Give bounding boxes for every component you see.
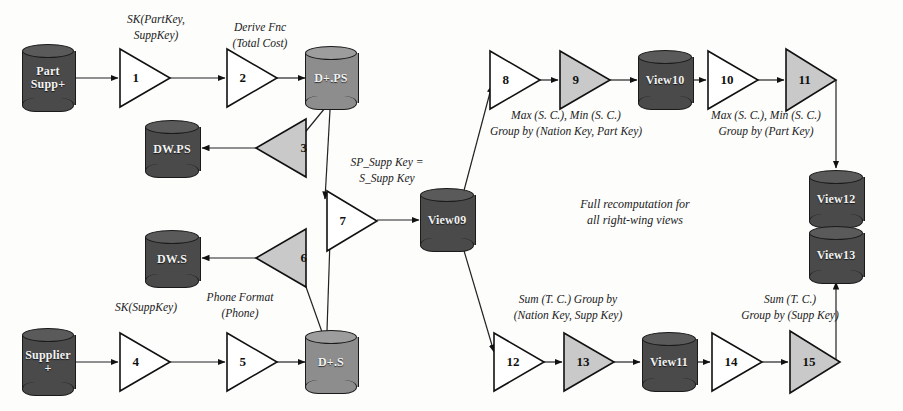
annotation-line2: (Total Cost) bbox=[200, 36, 320, 52]
cylinder-label: D+.S bbox=[305, 330, 357, 394]
annotation-line1: Sum (T. C.) bbox=[700, 292, 880, 308]
cylinder-view10[interactable]: View10 bbox=[638, 50, 692, 110]
cylinder-view12[interactable]: View12 bbox=[809, 170, 863, 228]
operator-8[interactable]: 8 bbox=[489, 50, 541, 110]
operator-3[interactable]: 3 bbox=[255, 118, 307, 178]
operator-6[interactable]: 6 bbox=[255, 228, 307, 288]
cylinder-label: D+.PS bbox=[305, 46, 357, 110]
annotation-sk-partkey: SK(PartKey, SuppKey) bbox=[96, 12, 216, 43]
cylinder-label: DW.S bbox=[145, 230, 199, 288]
annotation-line2: SuppKey) bbox=[96, 28, 216, 44]
cylinder-label: View10 bbox=[638, 50, 692, 110]
annotation-line2: S_Supp Key bbox=[327, 171, 447, 187]
annotation-join-key: SP_Supp Key = S_Supp Key bbox=[327, 155, 447, 186]
annotation-full-recomputation: Full recomputation for all right-wing vi… bbox=[540, 196, 730, 228]
annotation-line2: (Phone) bbox=[180, 306, 300, 322]
cylinder-view09[interactable]: View09 bbox=[420, 188, 474, 252]
operator-4[interactable]: 4 bbox=[119, 332, 171, 392]
annotation-line1: Phone Format bbox=[180, 290, 300, 306]
cylinder-dw-s[interactable]: DW.S bbox=[145, 230, 199, 288]
cylinder-supplier[interactable]: Supplier + bbox=[22, 328, 74, 396]
cylinder-view13[interactable]: View13 bbox=[809, 226, 863, 284]
annotation-phone-format: Phone Format (Phone) bbox=[180, 290, 300, 321]
annotation-line1: SK(PartKey, bbox=[96, 12, 216, 28]
cylinder-label: View12 bbox=[809, 170, 863, 228]
annotation-line1: SP_Supp Key = bbox=[327, 155, 447, 171]
annotation-derive-fnc: Derive Fnc (Total Cost) bbox=[200, 20, 320, 51]
annotation-line1: Max (S. C.), Min (S. C.) bbox=[466, 108, 666, 124]
annotation-line1: Derive Fnc bbox=[200, 20, 320, 36]
cylinder-d-plus-ps[interactable]: D+.PS bbox=[305, 46, 357, 110]
cylinder-label: DW.PS bbox=[145, 120, 199, 178]
diagram-canvas: Part Supp+ Supplier + D+.PS DW.PS D+. bbox=[0, 0, 903, 411]
note-line1: Full recomputation for bbox=[540, 196, 730, 212]
cylinder-label: View11 bbox=[642, 332, 696, 392]
cylinder-label-line2: Supp+ bbox=[31, 78, 66, 91]
annotation-line1: Sum (T. C.) Group by bbox=[478, 292, 658, 308]
cylinder-part-supp[interactable]: Part Supp+ bbox=[22, 44, 74, 112]
operator-11[interactable]: 11 bbox=[785, 48, 837, 112]
cylinder-view11[interactable]: View11 bbox=[642, 332, 696, 392]
operator-2[interactable]: 2 bbox=[226, 48, 278, 108]
annotation-sum-nation-supp: Sum (T. C.) Group by (Nation Key, Supp K… bbox=[478, 292, 658, 323]
annotation-sum-supp: Sum (T. C.) Group by (Supp Key) bbox=[700, 292, 880, 323]
operator-9[interactable]: 9 bbox=[559, 50, 611, 110]
operator-5[interactable]: 5 bbox=[226, 332, 278, 392]
cylinder-label-line2: + bbox=[25, 362, 71, 375]
annotation-line2: Group by (Part Key) bbox=[676, 124, 856, 140]
cylinder-label: View13 bbox=[809, 226, 863, 284]
operator-7[interactable]: 7 bbox=[326, 190, 378, 252]
operator-1[interactable]: 1 bbox=[119, 48, 171, 108]
cylinder-label: Supplier + bbox=[22, 328, 74, 396]
annotation-line2: Group by (Nation Key, Part Key) bbox=[466, 124, 666, 140]
operator-10[interactable]: 10 bbox=[707, 50, 759, 110]
note-line2: all right-wing views bbox=[540, 212, 730, 228]
annotation-maxmin-part: Max (S. C.), Min (S. C.) Group by (Part … bbox=[676, 108, 856, 139]
annotation-line2: (Nation Key, Supp Key) bbox=[478, 308, 658, 324]
cylinder-label: View09 bbox=[420, 188, 474, 252]
cylinder-dw-ps[interactable]: DW.PS bbox=[145, 120, 199, 178]
cylinder-d-plus-s[interactable]: D+.S bbox=[305, 330, 357, 394]
operator-14[interactable]: 14 bbox=[711, 332, 763, 392]
annotation-line1: Max (S. C.), Min (S. C.) bbox=[676, 108, 856, 124]
annotation-maxmin-nation-part: Max (S. C.), Min (S. C.) Group by (Natio… bbox=[466, 108, 666, 139]
cylinder-label: Part Supp+ bbox=[22, 44, 74, 112]
operator-13[interactable]: 13 bbox=[563, 332, 615, 392]
operator-12[interactable]: 12 bbox=[493, 332, 545, 392]
annotation-line2: Group by (Supp Key) bbox=[700, 308, 880, 324]
operator-15[interactable]: 15 bbox=[789, 330, 841, 394]
